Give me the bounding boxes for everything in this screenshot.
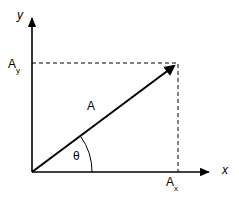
angle-arc: [81, 136, 92, 172]
x-axis-label: x: [222, 164, 228, 176]
x-component-label: Ax: [166, 176, 178, 191]
y-component-label: Ay: [8, 58, 20, 73]
vector-diagram-canvas: [0, 0, 239, 198]
vector-magnitude-label: A: [87, 100, 95, 112]
vector-components-figure: y x Ay Ax A θ: [0, 0, 239, 198]
y-component-base: A: [8, 57, 16, 71]
x-component-subscript: x: [174, 184, 178, 193]
y-axis-label: y: [17, 9, 23, 21]
vector-a-line: [32, 66, 174, 172]
x-component-base: A: [166, 175, 174, 189]
y-component-subscript: y: [16, 66, 20, 75]
angle-theta-label: θ: [73, 150, 80, 162]
